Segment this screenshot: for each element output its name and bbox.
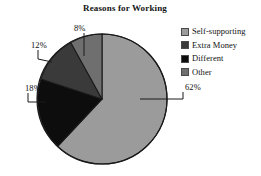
legend-swatch-icon — [181, 68, 189, 76]
legend-item-self-supporting[interactable]: Self-supporting — [181, 25, 261, 39]
legend-item-extra-money[interactable]: Extra Money — [181, 39, 261, 53]
legend-item-different[interactable]: Different — [181, 52, 261, 66]
data-label-different: 18% — [25, 83, 41, 93]
data-label-extra-money: 12% — [31, 40, 47, 50]
data-label-self-supporting: 62% — [185, 82, 201, 92]
legend-label: Other — [192, 68, 212, 77]
legend-swatch-icon — [181, 28, 189, 36]
legend-item-other[interactable]: Other — [181, 66, 261, 80]
data-label-other: 8% — [74, 23, 86, 33]
legend-swatch-icon — [181, 55, 189, 63]
chart-legend: Self-supporting Extra Money Different Ot… — [181, 25, 261, 79]
legend-label: Different — [192, 54, 223, 63]
legend-label: Extra Money — [192, 41, 237, 50]
legend-swatch-icon — [181, 41, 189, 49]
pie-chart-figure: Reasons for Working 8% 12% 18% 62% Self-… — [0, 0, 261, 176]
legend-label: Self-supporting — [192, 27, 246, 36]
